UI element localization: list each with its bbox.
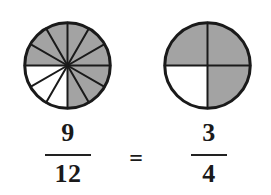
left-fraction-numerator: 9 [23,120,113,152]
right-fraction-numerator: 3 [164,120,254,152]
equals-sign: = [116,146,156,170]
left-fraction: 9 12 [23,120,113,191]
nine-twelfths-pie [20,16,115,115]
three-fourths-pie [160,16,255,115]
right-fraction: 3 4 [164,120,254,191]
left-fraction-bar [45,154,91,156]
right-fraction-bar [191,154,227,156]
right-fraction-denominator: 4 [164,159,254,191]
fraction-equation: 9 12 = 3 4 [0,120,271,195]
left-fraction-denominator: 12 [23,159,113,191]
equivalent-fractions-diagram: 9 12 = 3 4 [0,0,271,195]
